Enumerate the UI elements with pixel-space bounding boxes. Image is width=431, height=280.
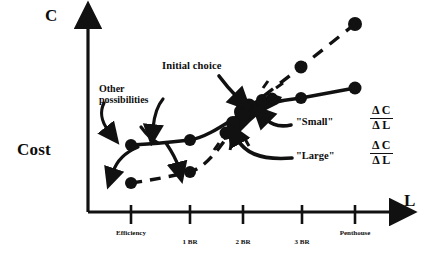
arrow-to-dashed-right [166, 143, 178, 166]
other-possibilities-arrows [102, 99, 178, 172]
other-possibilities-annotation: Other possibilities [99, 84, 148, 105]
delta-c-delta-l-large: Δ C Δ L [370, 139, 393, 167]
arrow-to-solid-left [102, 103, 108, 130]
y-axis-title: C [45, 7, 57, 25]
large-marginal-annotation: "Large" [296, 150, 334, 161]
small-marginal-annotation: "Small" [296, 116, 333, 127]
x-tick-label-penthouse: Penthouse [325, 229, 385, 238]
data-point [295, 61, 308, 74]
x-tick-label-1br: 1 BR [160, 238, 220, 247]
data-point [349, 82, 362, 95]
figure-canvas: C L Cost Other possibilities Initial cho… [0, 0, 431, 280]
data-point [184, 134, 196, 146]
y-axis-name-label: Cost [17, 141, 51, 159]
x-axis-ticks [131, 205, 355, 224]
x-tick-label-efficiency: Efficiency [101, 229, 161, 238]
x-tick-label-3br: 3 BR [272, 238, 332, 247]
delta-c-delta-l-small: Δ C Δ L [370, 104, 393, 132]
x-tick-label-2br: 2 BR [213, 238, 273, 247]
small-callout-arrow [266, 119, 291, 126]
data-point [184, 166, 196, 178]
arrow-to-dashed-left [113, 147, 138, 172]
arrow-branch-connector [141, 127, 158, 143]
data-point [125, 177, 137, 189]
arrow-to-solid-right [153, 99, 163, 128]
fraction-numerator: Δ C [370, 139, 393, 154]
fraction-denominator: Δ L [370, 154, 393, 168]
data-point [348, 17, 362, 31]
initial-choice-arrow [219, 76, 237, 97]
fraction-numerator: Δ C [370, 104, 393, 119]
x-axis-title: L [404, 192, 415, 210]
data-point [295, 92, 307, 104]
fraction-denominator: Δ L [370, 119, 393, 133]
initial-choice-annotation: Initial choice [162, 60, 221, 71]
initial-choice-marker [220, 93, 283, 141]
